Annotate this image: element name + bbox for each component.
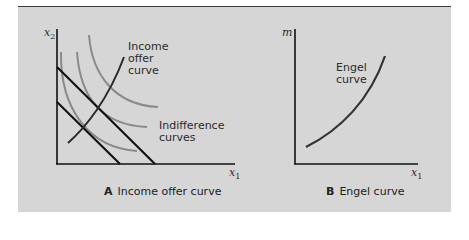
income-offer-curve bbox=[68, 57, 124, 143]
panel-a-caption: AIncome offer curve bbox=[104, 185, 221, 198]
panel-a-y-axis-label: x2 bbox=[44, 27, 55, 43]
indifference-curves-label: Indifferencecurves bbox=[159, 120, 224, 144]
panel-b-y-axis-label: m bbox=[282, 27, 292, 39]
engel-curve-label: Engelcurve bbox=[336, 62, 367, 86]
panel-b-caption: BEngel curve bbox=[326, 185, 404, 198]
panel-b-x-axis-label: x1 bbox=[411, 167, 422, 183]
panel-a-x-axis-label: x1 bbox=[229, 167, 240, 183]
income-offer-label: Incomeoffercurve bbox=[128, 41, 168, 77]
